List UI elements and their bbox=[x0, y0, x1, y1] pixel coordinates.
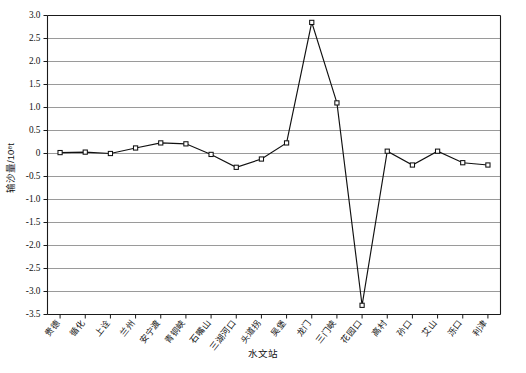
y-axis-tick-label: 1.5 bbox=[29, 79, 41, 89]
data-point-marker bbox=[259, 157, 263, 161]
data-point-marker bbox=[284, 141, 288, 145]
y-axis-tick-label: -3.0 bbox=[26, 286, 41, 296]
data-point-marker bbox=[58, 150, 62, 154]
data-point-marker bbox=[360, 303, 364, 307]
y-axis-tick-label: 2.0 bbox=[29, 56, 41, 66]
y-axis-tick-label: -3.5 bbox=[26, 309, 41, 319]
data-point-marker bbox=[486, 163, 490, 167]
y-axis-tick-label: 3.0 bbox=[29, 10, 41, 20]
y-axis-tick-label: -0.5 bbox=[26, 171, 41, 181]
data-point-marker bbox=[159, 141, 163, 145]
chart-background bbox=[0, 0, 526, 373]
data-point-marker bbox=[184, 142, 188, 146]
y-axis-tick-label: -2.5 bbox=[26, 263, 41, 273]
data-point-marker bbox=[385, 149, 389, 153]
x-axis-title: 水文站 bbox=[248, 348, 278, 359]
data-point-marker bbox=[435, 149, 439, 153]
data-point-marker bbox=[209, 152, 213, 156]
y-axis-tick-label: -1.0 bbox=[26, 194, 41, 204]
y-axis-tick-label: -2.0 bbox=[26, 240, 41, 250]
y-axis-tick-label: 1.0 bbox=[29, 102, 41, 112]
chart-canvas: 3.02.52.01.51.00.50-0.5-1.0-1.5-2.0-2.5-… bbox=[0, 0, 526, 373]
y-axis-tick-label: -1.5 bbox=[26, 217, 41, 227]
data-point-marker bbox=[335, 101, 339, 105]
data-point-marker bbox=[310, 20, 314, 24]
data-point-marker bbox=[461, 161, 465, 165]
data-point-marker bbox=[234, 165, 238, 169]
data-point-marker bbox=[133, 146, 137, 150]
y-axis-tick-label: 0.5 bbox=[29, 125, 41, 135]
data-point-marker bbox=[410, 163, 414, 167]
data-point-marker bbox=[108, 151, 112, 155]
y-axis-title: 输沙量/10⁸t bbox=[5, 143, 16, 193]
sediment-transport-line-chart: 3.02.52.01.51.00.50-0.5-1.0-1.5-2.0-2.5-… bbox=[0, 0, 526, 373]
y-axis-tick-label: 0 bbox=[36, 148, 41, 158]
data-point-marker bbox=[83, 150, 87, 154]
y-axis-tick-label: 2.5 bbox=[29, 33, 41, 43]
